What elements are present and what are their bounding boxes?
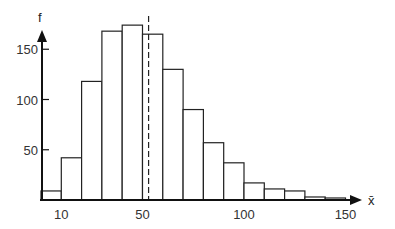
histogram-bar [183,110,203,200]
histogram-chart: 50100150 1050100150 f x̄ [0,0,395,229]
x-axis-arrow-icon [350,195,362,205]
histogram-bar [61,158,81,200]
histogram-bar [41,191,61,200]
histogram-bar [82,81,102,200]
histogram-bar [264,189,284,200]
histogram-bar [203,143,223,200]
histogram-bar [244,183,264,200]
x-axis-label: x̄ [368,193,375,208]
histogram-bar [285,191,305,200]
y-ticks: 50100150 [16,42,49,158]
x-tick-label: 50 [135,207,149,222]
histogram-bar [224,163,244,200]
y-tick-label: 50 [24,143,38,158]
histogram-bar [122,25,142,200]
y-axis-label: f [38,10,42,25]
y-tick-label: 100 [16,93,38,108]
x-tick-label: 100 [233,207,255,222]
histogram-bar [143,34,163,200]
y-tick-label: 150 [16,42,38,57]
y-axis-arrow-icon [37,30,47,42]
histogram-bar [163,69,183,200]
histogram-bars [41,25,346,200]
x-tick-label: 10 [54,207,68,222]
histogram-bar [102,31,122,200]
x-tick-label: 150 [335,207,357,222]
x-ticks: 1050100150 [54,207,356,222]
